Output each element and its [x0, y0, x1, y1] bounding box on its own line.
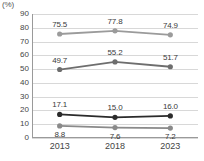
data-point-label: 7.2: [165, 133, 176, 141]
data-point-label: 8.8: [54, 131, 65, 139]
data-point-marker: [168, 113, 173, 118]
data-point-label: 49.7: [52, 57, 67, 65]
plot-area: 75.577.874.949.755.251.717.115.016.08.87…: [32, 14, 198, 138]
data-point-label: 75.5: [52, 21, 67, 29]
data-point-label: 74.9: [163, 22, 178, 30]
y-tick-label: 80: [20, 24, 29, 32]
line-chart: (%) 75.577.874.949.755.251.717.115.016.0…: [0, 0, 204, 161]
y-tick-label: 50: [20, 65, 29, 73]
data-point-marker: [112, 125, 117, 130]
data-point-marker: [168, 32, 173, 37]
data-point-label: 7.6: [110, 133, 121, 141]
data-point-marker: [112, 28, 117, 33]
data-point-label: 51.7: [163, 54, 178, 62]
data-point-label: 77.8: [108, 18, 123, 26]
data-point-label: 17.1: [52, 101, 67, 109]
data-point-label: 15.0: [108, 104, 123, 112]
y-tick-label: 10: [20, 120, 29, 128]
x-tick-label: 2018: [105, 142, 125, 151]
data-point-label: 55.2: [108, 49, 123, 57]
data-point-marker: [57, 31, 62, 36]
data-point-marker: [57, 123, 62, 128]
y-tick-label: 20: [20, 106, 29, 114]
y-tick-label: 70: [20, 38, 29, 46]
data-point-marker: [168, 64, 173, 69]
data-point-label: 16.0: [163, 103, 178, 111]
y-tick-label: 60: [20, 51, 29, 59]
series-layer: [32, 14, 198, 138]
y-tick-label: 30: [20, 93, 29, 101]
y-axis-unit-label: (%): [2, 0, 14, 9]
data-point-marker: [57, 112, 62, 117]
y-tick-label: 90: [20, 10, 29, 18]
data-point-marker: [112, 115, 117, 120]
x-tick-label: 2023: [160, 142, 180, 151]
x-tick-label: 2013: [50, 142, 70, 151]
data-point-marker: [168, 125, 173, 130]
data-point-marker: [112, 59, 117, 64]
y-tick-label: 0: [25, 134, 29, 142]
y-tick-label: 40: [20, 79, 29, 87]
data-point-marker: [57, 67, 62, 72]
